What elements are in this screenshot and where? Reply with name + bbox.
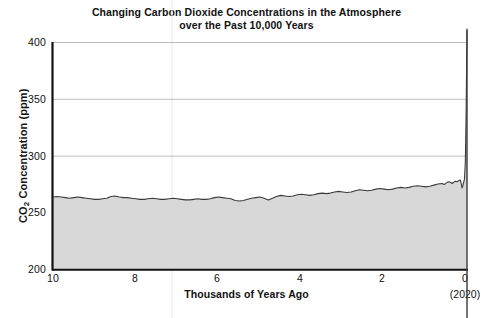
co2-line <box>53 29 467 201</box>
co2-chart-figure: Changing Carbon Dioxide Concentrations i… <box>0 0 493 318</box>
co2-area-fill <box>53 29 467 270</box>
chart-plot-area <box>0 0 493 318</box>
gridlines <box>53 43 467 213</box>
